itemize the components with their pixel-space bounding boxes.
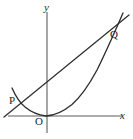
coordinate-plot: [0, 0, 133, 139]
point-label-q: Q: [110, 29, 118, 40]
figure-container: y x O P Q: [0, 0, 133, 139]
point-label-p: P: [9, 95, 15, 106]
x-axis-label: x: [120, 110, 125, 121]
origin-label: O: [35, 116, 43, 127]
y-axis-label: y: [44, 2, 49, 13]
